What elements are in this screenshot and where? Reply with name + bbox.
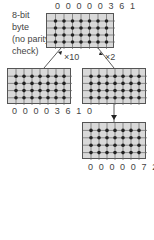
bottom-core-grid xyxy=(82,122,146,159)
left-core-grid xyxy=(7,68,71,104)
multiply-2-label: ×2 xyxy=(105,52,115,62)
multiply-10-label: ×10 xyxy=(64,52,79,62)
right-core-grid xyxy=(82,68,146,104)
left-grid-value: 0 0 0 0 3 6 1 0 xyxy=(12,106,94,116)
arrow-head-down xyxy=(111,115,117,120)
arrow-head-left xyxy=(58,51,62,55)
bottom-grid-value: 0 0 0 0 0 7 2 2 xyxy=(88,162,154,172)
